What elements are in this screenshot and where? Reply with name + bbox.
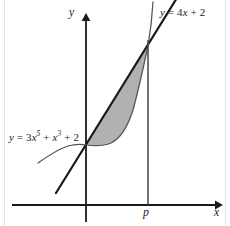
line-eq-equals: = <box>168 6 174 18</box>
line-equation-label: y = 4x + 2 <box>160 6 205 18</box>
line-eq-lhs: y <box>160 6 165 18</box>
curve-eq-plus-2: + <box>64 131 70 143</box>
curve-eq-plus-1: + <box>43 131 49 143</box>
curve-equation-label: y = 3x5 + x3 + 2 <box>9 131 79 143</box>
curve-eq-term1-exponent: 5 <box>37 129 41 138</box>
curve-eq-lhs: y <box>9 131 14 143</box>
line-eq-variable: x <box>183 6 188 18</box>
line-eq-plus: + <box>190 6 196 18</box>
p-tick-label: p <box>143 205 149 220</box>
curve-eq-term2-exponent: 3 <box>57 129 61 138</box>
y-axis-arrowhead <box>82 13 91 21</box>
plot-canvas <box>0 0 230 226</box>
graph-figure: y = 3x5 + x3 + 2 y = 4x + 2 y x p <box>0 0 230 226</box>
x-axis-label: x <box>214 206 219 218</box>
curve-eq-equals: = <box>17 131 23 143</box>
y-axis-label: y <box>69 6 74 18</box>
line-eq-intercept: 2 <box>200 6 206 18</box>
curve-eq-constant: 2 <box>73 131 79 143</box>
